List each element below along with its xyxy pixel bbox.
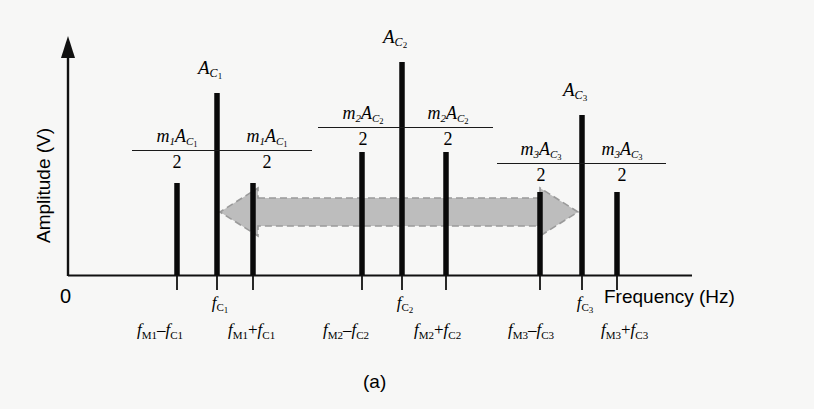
sbl-s1-4: M	[513, 329, 523, 341]
sbl-s2-0: C	[170, 329, 177, 341]
sbl-op-3: +	[434, 320, 444, 339]
fraction-label-lsb-1: m1AC1 2	[132, 127, 222, 173]
sbl-op-5: +	[621, 320, 631, 339]
tick-sub-1: C	[401, 301, 408, 313]
sideband-label-usb-2: fM2+fC2	[414, 321, 461, 341]
frac-den-5: 2	[578, 164, 666, 186]
sbl-s2-5: C	[635, 329, 642, 341]
frac-a-subsub-0: 1	[193, 139, 197, 149]
y-axis	[61, 36, 75, 276]
sbl-n2-3: 2	[456, 329, 462, 341]
sbl-s1-5: M	[606, 329, 616, 341]
sbl-s2-2: C	[356, 329, 363, 341]
tick-subsub-0: 1	[224, 305, 229, 315]
frac-a-4: A	[539, 139, 550, 159]
frac-den-3: 2	[403, 128, 493, 150]
tick-subsub-2: 3	[589, 305, 594, 315]
sbl-n2-0: 1	[178, 329, 184, 341]
fraction-label-usb-1: m1AC1 2	[222, 127, 312, 173]
sbl-n2-5: 3	[643, 329, 649, 341]
amp-sub-3: C	[575, 88, 583, 102]
amp-subsub-2: 2	[403, 41, 408, 51]
amp-main-2: A	[383, 26, 395, 47]
amp-main-3: A	[563, 79, 575, 100]
tick-label-carrier-1: fC1	[200, 294, 240, 315]
amplitude-label-carrier-2: AC2	[383, 27, 407, 51]
fraction-label-lsb-3: m3AC3 2	[497, 140, 585, 186]
sbl-s1-0: M	[142, 329, 152, 341]
sideband-label-usb-1: fM1+fC1	[228, 321, 275, 341]
tick-label-carrier-2: fC2	[385, 294, 425, 315]
amp-subsub-3: 3	[583, 94, 588, 104]
sbl-n2-2: 2	[364, 329, 370, 341]
sbl-n2-4: 3	[549, 329, 555, 341]
figure-caption: (a)	[363, 372, 386, 391]
sbl-s2-3: C	[448, 329, 455, 341]
frac-den-2: 2	[318, 128, 408, 150]
amp-sub-2: C	[395, 35, 403, 49]
frac-a-5: A	[620, 139, 631, 159]
frac-m-3: m	[427, 103, 440, 123]
sideband-label-lsb-1: fM1–fC1	[137, 321, 183, 341]
fraction-label-usb-2: m2AC2 2	[403, 104, 493, 150]
frac-a-subsub-4: 3	[557, 152, 561, 162]
sbl-op-4: –	[528, 320, 537, 339]
tick-label-carrier-3: fC3	[565, 294, 605, 315]
sbl-n2-1: 1	[270, 329, 276, 341]
amp-subsub-1: 1	[218, 72, 223, 82]
frac-den-0: 2	[132, 151, 222, 173]
tick-sub-2: C	[581, 301, 588, 313]
sideband-label-lsb-3: fM3–fC3	[508, 321, 554, 341]
frac-m-2: m	[342, 103, 355, 123]
figure-am-spectrum: Amplitude (V) Frequency (Hz) 0 AC1 AC2 A…	[0, 0, 814, 409]
origin-label: 0	[60, 286, 71, 306]
sbl-op-0: –	[157, 320, 166, 339]
spectrum-plot	[0, 0, 814, 409]
tick-subsub-1: 2	[409, 305, 414, 315]
sbl-s1-1: M	[233, 329, 243, 341]
frac-a-subsub-5: 3	[638, 152, 642, 162]
frac-m-4: m	[520, 139, 533, 159]
frac-a-3: A	[446, 103, 457, 123]
fraction-label-lsb-2: m2AC2 2	[318, 104, 408, 150]
sbl-s1-2: M	[328, 329, 338, 341]
x-axis-title: Frequency (Hz)	[604, 287, 735, 306]
bandwidth-double-arrow	[220, 188, 578, 236]
amplitude-label-carrier-3: AC3	[563, 80, 587, 104]
frac-m-5: m	[601, 139, 614, 159]
sbl-s2-1: C	[262, 329, 269, 341]
y-axis-title: Amplitude (V)	[34, 128, 53, 243]
amp-main-1: A	[198, 57, 210, 78]
frac-m-1: m	[246, 126, 259, 146]
sideband-label-usb-3: fM3+fC3	[601, 321, 648, 341]
fraction-label-usb-3: m3AC3 2	[578, 140, 666, 186]
sbl-s2-4: C	[541, 329, 548, 341]
amplitude-label-carrier-1: AC1	[198, 58, 222, 82]
x-axis-ticks	[177, 275, 617, 290]
sbl-op-1: +	[248, 320, 258, 339]
frac-a-subsub-1: 1	[283, 139, 287, 149]
sbl-s1-3: M	[419, 329, 429, 341]
tick-sub-0: C	[216, 301, 223, 313]
sideband-label-lsb-2: fM2–fC2	[323, 321, 369, 341]
frac-a-subsub-2: 2	[379, 116, 383, 126]
frac-den-4: 2	[497, 164, 585, 186]
frac-a-2: A	[361, 103, 372, 123]
amp-sub-1: C	[210, 66, 218, 80]
frac-den-1: 2	[222, 151, 312, 173]
frac-m-0: m	[156, 126, 169, 146]
frac-a-1: A	[265, 126, 276, 146]
sbl-op-2: –	[343, 320, 352, 339]
frac-a-subsub-3: 2	[464, 116, 468, 126]
frac-a-0: A	[175, 126, 186, 146]
